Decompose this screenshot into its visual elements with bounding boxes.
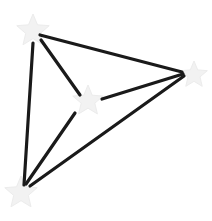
edges-layer (24, 35, 184, 186)
star-node-d-icon (5, 176, 37, 207)
tetrahedron-graph-diagram (0, 0, 212, 221)
star-node-a-icon (17, 14, 49, 45)
edge-a-d (24, 43, 33, 185)
edge-b-d (30, 76, 184, 186)
nodes-layer (5, 14, 208, 207)
edge-c-d (26, 113, 75, 184)
edge-a-c (41, 40, 80, 95)
star-node-b-icon (181, 61, 208, 86)
